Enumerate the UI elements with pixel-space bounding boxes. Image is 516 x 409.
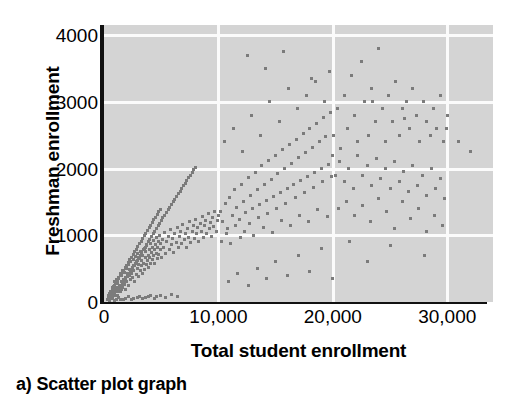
data-point — [262, 226, 265, 229]
data-point — [127, 261, 130, 264]
y-tick-label: 2000 — [30, 160, 98, 179]
data-point — [297, 254, 300, 257]
data-point — [435, 127, 438, 130]
data-point — [401, 200, 404, 203]
data-point — [153, 230, 156, 233]
data-point — [352, 187, 355, 190]
data-point — [457, 140, 460, 143]
data-point — [176, 295, 179, 298]
data-point — [320, 167, 323, 170]
data-point — [120, 272, 123, 275]
data-point — [129, 270, 132, 273]
data-point — [220, 240, 223, 243]
data-point — [320, 247, 323, 250]
data-point — [311, 146, 314, 149]
data-point — [211, 216, 214, 219]
x-tick-label: 20,000 — [304, 306, 362, 328]
data-point — [185, 246, 188, 249]
data-point — [356, 154, 359, 157]
data-point — [312, 186, 315, 189]
data-point — [147, 240, 150, 243]
data-point — [208, 227, 211, 230]
data-point — [221, 220, 224, 223]
data-point — [381, 107, 384, 110]
data-point — [192, 168, 195, 171]
data-point — [407, 190, 410, 193]
data-point — [167, 208, 170, 211]
data-point — [346, 127, 349, 130]
data-point — [155, 295, 158, 298]
data-point — [143, 234, 146, 237]
data-point — [242, 200, 245, 203]
data-point — [207, 212, 210, 215]
data-point — [268, 100, 271, 103]
data-point — [176, 226, 179, 229]
data-point — [374, 120, 377, 123]
data-point — [150, 235, 153, 238]
data-point — [170, 203, 173, 206]
data-point — [232, 127, 235, 130]
data-point — [172, 200, 175, 203]
data-point — [257, 216, 260, 219]
data-point — [366, 260, 369, 263]
data-point — [164, 252, 167, 255]
data-point — [143, 268, 146, 271]
data-point — [113, 293, 116, 296]
data-point — [136, 259, 139, 262]
data-point — [321, 180, 324, 183]
data-point — [384, 140, 387, 143]
data-point — [284, 202, 287, 205]
data-point — [286, 187, 289, 190]
data-point — [209, 221, 212, 224]
data-point — [144, 296, 147, 299]
data-point — [345, 200, 348, 203]
data-point — [264, 67, 267, 70]
data-point — [187, 236, 190, 239]
data-point — [130, 256, 133, 259]
data-point — [136, 245, 139, 248]
data-point — [353, 214, 356, 217]
data-point — [204, 219, 207, 222]
data-point — [210, 235, 213, 238]
data-point — [271, 231, 274, 234]
data-point — [159, 208, 162, 211]
data-point — [160, 219, 163, 222]
data-point — [165, 211, 168, 214]
data-point — [158, 234, 161, 237]
data-point — [195, 232, 198, 235]
data-point — [360, 60, 363, 63]
data-point — [336, 107, 339, 110]
x-axis-title: Total student enrollment — [104, 340, 493, 362]
data-point — [159, 294, 162, 297]
data-point — [187, 176, 190, 179]
y-axis-tick-labels: 01000200030004000 — [30, 25, 98, 302]
data-point — [371, 100, 374, 103]
data-point — [182, 184, 185, 187]
data-point — [339, 147, 342, 150]
data-point — [175, 195, 178, 198]
data-point — [226, 227, 229, 230]
data-point — [201, 215, 204, 218]
data-point — [177, 246, 180, 249]
data-point — [125, 264, 128, 267]
data-point — [191, 171, 194, 174]
data-point — [168, 206, 171, 209]
data-point — [170, 293, 173, 296]
data-point — [259, 134, 262, 137]
data-point — [385, 210, 388, 213]
data-point — [375, 157, 378, 160]
data-point — [147, 266, 150, 269]
data-point — [254, 171, 257, 174]
data-point — [434, 187, 437, 190]
data-point — [251, 207, 254, 210]
data-point — [140, 240, 143, 243]
data-point — [433, 214, 436, 217]
data-point — [443, 197, 446, 200]
data-point — [258, 203, 261, 206]
gridline-horizontal — [104, 101, 493, 104]
data-point — [393, 227, 396, 230]
data-point — [219, 210, 222, 213]
data-point — [124, 266, 127, 269]
data-point — [256, 267, 259, 270]
data-point — [394, 80, 397, 83]
